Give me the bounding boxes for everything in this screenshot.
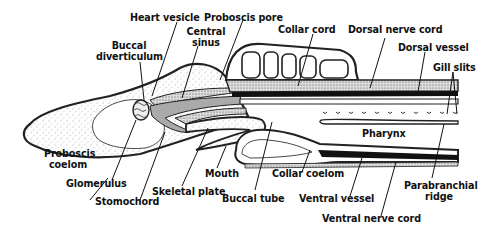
glomerulus xyxy=(133,100,149,120)
label-buccal-diverticulum-line1: Buccal xyxy=(96,40,162,51)
label-parabranchial-ridge-line2: ridge xyxy=(404,191,474,202)
label-dorsal-nerve-cord: Dorsal nerve cord xyxy=(348,24,442,35)
label-collar-coelom: Collar coelom xyxy=(272,168,344,179)
label-skeletal-plate: Skeletal plate xyxy=(152,186,225,197)
label-pharynx: Pharynx xyxy=(362,128,406,139)
label-proboscis-coelom-line1: Proboscis xyxy=(44,148,92,159)
label-collar-cord: Collar cord xyxy=(278,24,336,35)
label-buccal-tube: Buccal tube xyxy=(222,193,284,204)
label-dorsal-vessel: Dorsal vessel xyxy=(398,42,469,53)
label-mouth: Mouth xyxy=(205,168,239,179)
label-buccal-diverticulum: Buccal diverticulum xyxy=(96,40,162,62)
collar xyxy=(226,44,358,80)
label-proboscis-coelom: Proboscis coelom xyxy=(44,148,92,170)
label-ventral-vessel: Ventral vessel xyxy=(299,193,374,204)
label-proboscis-pore: Proboscis pore xyxy=(204,12,283,23)
label-central-sinus: Central sinus xyxy=(184,26,228,48)
label-buccal-diverticulum-line2: diverticulum xyxy=(96,51,162,62)
label-gill-slits: Gill slits xyxy=(433,62,476,73)
label-parabranchial-ridge-line1: Parabranchial xyxy=(404,180,474,191)
label-central-sinus-line1: Central xyxy=(184,26,228,37)
label-glomerulus: Glomerulus xyxy=(66,178,127,189)
parabranchial-ridge xyxy=(320,119,458,124)
dorsal-body-wall xyxy=(226,80,458,104)
label-ventral-nerve-cord: Ventral nerve cord xyxy=(322,213,421,224)
label-central-sinus-line2: sinus xyxy=(184,37,228,48)
label-parabranchial-ridge: Parabranchial ridge xyxy=(404,180,474,202)
label-proboscis-coelom-line2: coelom xyxy=(44,159,92,170)
label-heart-vesicle: Heart vesicle xyxy=(130,12,200,23)
anatomy-diagram: Heart vesicle Proboscis pore Collar cord… xyxy=(0,0,500,238)
label-stomochord: Stomochord xyxy=(95,196,159,207)
gill-slits xyxy=(323,112,457,114)
